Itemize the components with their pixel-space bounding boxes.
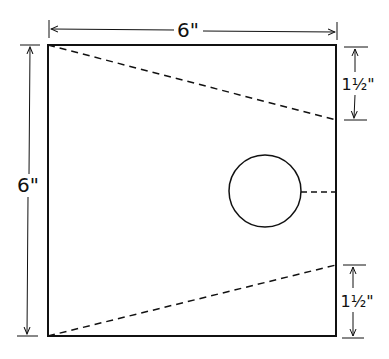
lower-dashed-fold-line (48, 265, 336, 336)
right-top-offset-dimension: 1½" (341, 47, 374, 120)
template-diagram: 6" 6" 1½" 1½" (0, 0, 389, 359)
right-bottom-offset-dimension: 1½" (340, 265, 373, 338)
left-height-label: 6" (17, 173, 39, 197)
hole-circle (229, 155, 301, 227)
upper-dashed-fold-line (48, 45, 336, 120)
top-width-dimension: 6" (49, 18, 337, 42)
right-bottom-offset-label: 1½" (340, 292, 373, 311)
left-height-dimension: 6" (17, 45, 40, 336)
top-width-label: 6" (177, 18, 199, 42)
square-outline (48, 45, 336, 336)
right-top-offset-label: 1½" (341, 75, 374, 94)
